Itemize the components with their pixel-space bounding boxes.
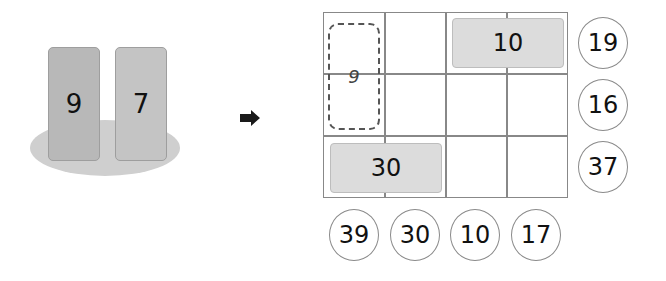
- col-sum-value: 10: [460, 221, 491, 249]
- card-value: 9: [66, 89, 83, 119]
- row-sum-value: 19: [588, 29, 619, 57]
- row-sum-value: 37: [588, 153, 619, 181]
- row-sum-1: 19: [578, 17, 628, 69]
- col-sum-1: 39: [329, 209, 379, 261]
- row-sum-2: 16: [578, 79, 628, 131]
- col-sum-value: 30: [400, 221, 431, 249]
- placed-tile-30[interactable]: 30: [330, 143, 442, 193]
- placed-tile-10[interactable]: 10: [452, 18, 564, 68]
- sketched-tile-value: 9: [348, 66, 359, 87]
- tile-value: 30: [371, 154, 402, 182]
- grid-line: [445, 13, 447, 197]
- col-sum-value: 17: [521, 221, 552, 249]
- col-sum-3: 10: [450, 209, 500, 261]
- row-sum-3: 37: [578, 141, 628, 193]
- grid-line: [324, 135, 567, 137]
- number-card-2[interactable]: 7: [115, 47, 167, 161]
- col-sum-value: 39: [339, 221, 370, 249]
- col-sum-4: 17: [511, 209, 561, 261]
- right-arrow-icon: [240, 110, 262, 130]
- tile-value: 10: [493, 29, 524, 57]
- puzzle-grid: 9 10 30: [323, 12, 568, 198]
- card-value: 7: [133, 89, 150, 119]
- row-sum-value: 16: [588, 91, 619, 119]
- number-card-1[interactable]: 9: [48, 47, 100, 161]
- sketched-tile[interactable]: 9: [328, 23, 380, 130]
- col-sum-2: 30: [390, 209, 440, 261]
